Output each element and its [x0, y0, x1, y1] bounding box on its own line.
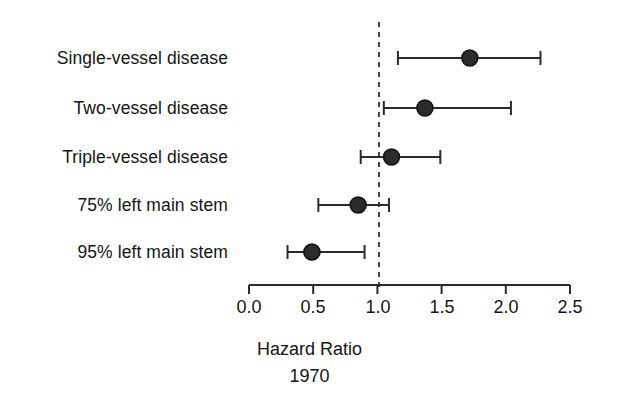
forest-row — [384, 100, 511, 116]
x-axis-title: Hazard Ratio — [0, 339, 619, 360]
point-estimate-marker — [304, 244, 320, 260]
x-axis — [249, 285, 570, 294]
x-tick-label-2: 1.0 — [365, 297, 390, 318]
point-estimate-marker — [462, 50, 478, 66]
point-estimate-marker — [417, 100, 433, 116]
x-tick-label-4: 2.0 — [493, 297, 518, 318]
point-estimate-marker — [350, 197, 366, 213]
forest-row — [288, 244, 365, 260]
point-estimate-marker — [384, 149, 400, 165]
forest-plot-figure: Single-vessel disease Two-vessel disease… — [0, 0, 619, 414]
x-axis-tick-marks — [249, 285, 570, 294]
forest-row — [398, 50, 541, 66]
x-axis-subtitle-year: 1970 — [0, 366, 619, 387]
x-tick-label-5: 2.5 — [557, 297, 582, 318]
forest-row — [361, 149, 441, 165]
x-tick-label-0: 0.0 — [236, 297, 261, 318]
data-series-group — [288, 50, 541, 260]
forest-row — [318, 197, 389, 213]
x-tick-label-3: 1.5 — [429, 297, 454, 318]
x-tick-label-1: 0.5 — [300, 297, 325, 318]
